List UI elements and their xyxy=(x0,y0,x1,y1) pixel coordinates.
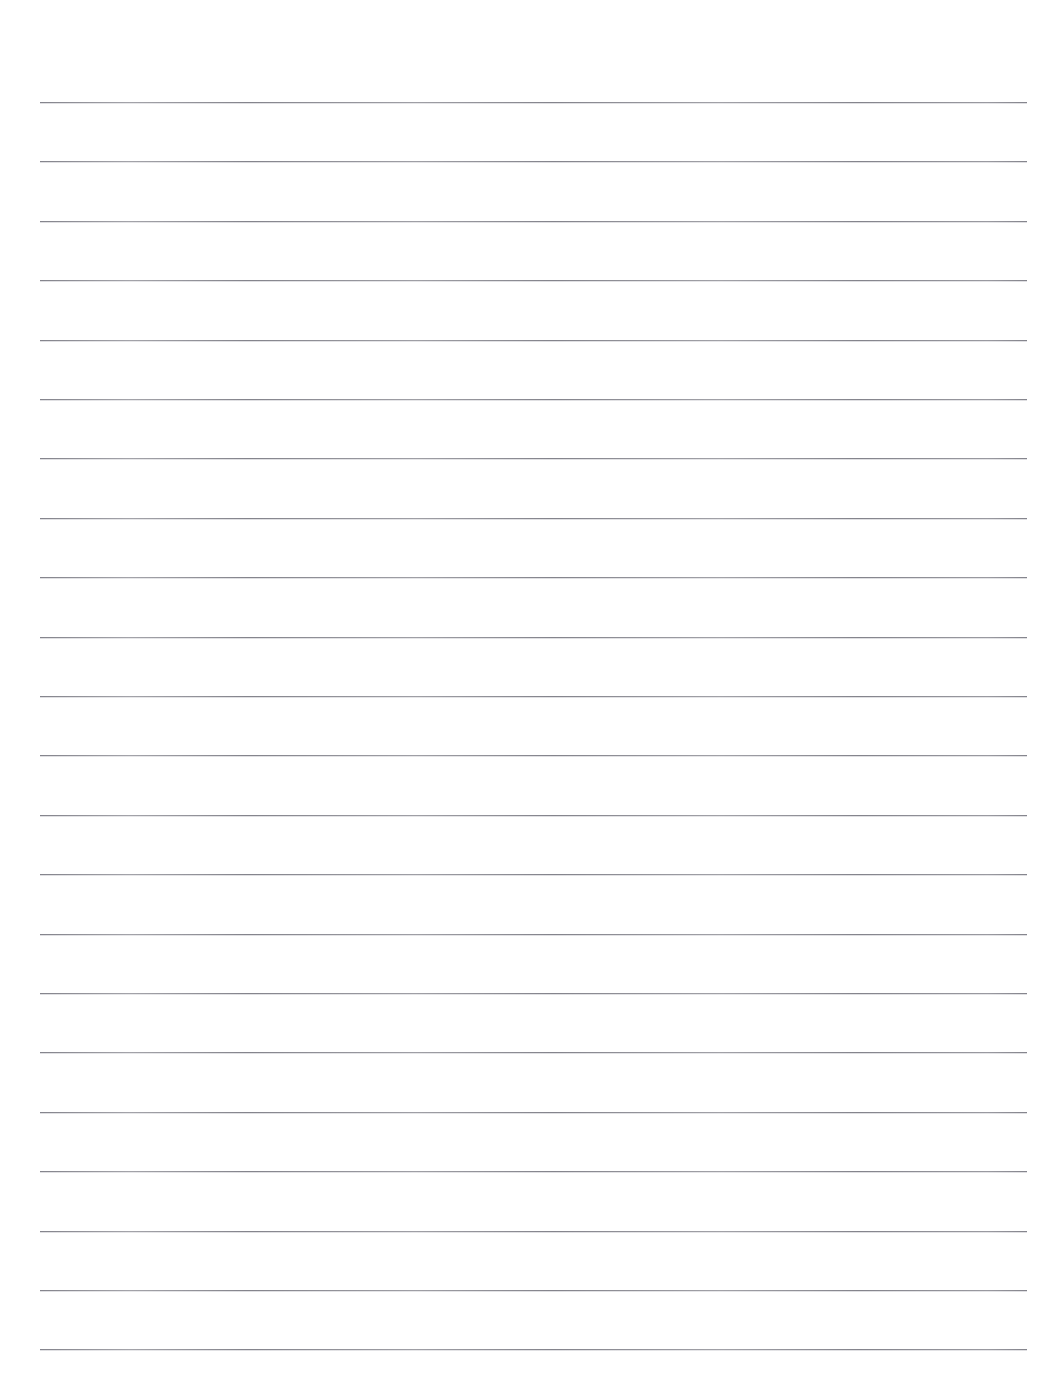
lined-paper-page xyxy=(0,0,1050,1394)
writing-area[interactable] xyxy=(0,0,1050,1394)
